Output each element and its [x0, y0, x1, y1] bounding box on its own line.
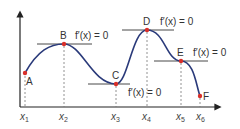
svg-text:x6: x6: [195, 111, 205, 123]
derivative-label-e: f′(x) = 0: [193, 47, 227, 58]
label-f: F: [203, 91, 209, 102]
point-b: [62, 42, 66, 46]
derivative-label-c: f′(x) = 0: [128, 87, 162, 98]
point-c: [114, 82, 118, 86]
label-e: E: [177, 47, 184, 58]
stationary-points-diagram: A B C D E F f′(x) = 0 f′(x) = 0 f′(x) = …: [0, 0, 240, 129]
point-d: [145, 28, 149, 32]
point-f: [198, 94, 202, 98]
x-tick-labels: x1 x2 x3 x4 x5 x6: [19, 111, 205, 123]
derivative-label-b: f′(x) = 0: [75, 30, 109, 41]
svg-text:x4: x4: [141, 111, 151, 123]
derivative-label-d: f′(x) = 0: [160, 16, 194, 27]
svg-text:x2: x2: [58, 111, 68, 123]
label-c: C: [112, 70, 119, 81]
label-b: B: [60, 30, 67, 41]
stationary-points: [23, 28, 202, 98]
point-a: [23, 71, 27, 75]
label-a: A: [26, 76, 33, 87]
label-d: D: [143, 16, 150, 27]
svg-text:x1: x1: [19, 111, 29, 123]
function-curve: [25, 30, 200, 96]
svg-text:x5: x5: [175, 111, 185, 123]
point-e: [179, 59, 183, 63]
svg-text:x3: x3: [110, 111, 120, 123]
